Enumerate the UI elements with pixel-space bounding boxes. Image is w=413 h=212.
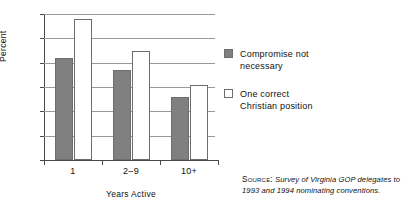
y-axis-tick — [40, 63, 44, 64]
legend-label-line1: Compromise not — [240, 49, 309, 59]
source-line1: Survey of Virginia GOP delegates to — [275, 175, 400, 184]
bar — [171, 97, 189, 160]
filled-gray-swatch-icon — [224, 49, 233, 58]
legend-label-line1: One correct — [240, 89, 289, 99]
x-axis-category-label: 1 — [70, 166, 75, 176]
bar — [190, 85, 208, 160]
legend-item-compromise-not-necessary: Compromise not necessary — [224, 48, 354, 72]
legend-label: Compromise not necessary — [240, 48, 309, 72]
chart-legend: Compromise not necessary One correct Chr… — [224, 48, 354, 128]
y-axis-tick — [40, 87, 44, 88]
x-axis-line — [44, 160, 218, 161]
bar — [132, 51, 150, 161]
legend-label-line2: Christian position — [240, 101, 313, 111]
x-axis-tick — [160, 160, 161, 165]
y-axis-tick — [40, 14, 44, 15]
gridline — [44, 14, 215, 15]
source-label: Source: — [242, 175, 273, 184]
source-note: Source: Survey of Virginia GOP delegates… — [242, 175, 410, 196]
open-white-swatch-icon — [224, 89, 233, 98]
legend-label: One correct Christian position — [240, 88, 313, 112]
x-axis-tick — [44, 160, 45, 165]
plot-area: 12–910+ — [44, 14, 218, 160]
bar — [74, 19, 92, 160]
legend-label-line2: necessary — [240, 61, 283, 71]
y-axis-tick — [40, 136, 44, 137]
bar — [55, 58, 73, 160]
x-axis-category-label: 2–9 — [123, 166, 139, 176]
source-line2: 1993 and 1994 nominating conventions. — [242, 186, 380, 195]
x-axis-title: Years Active — [44, 189, 218, 199]
x-axis-tick — [102, 160, 103, 165]
x-axis-tick — [218, 160, 219, 165]
bar-chart-figure: Percent 12–910+ 0102030405060 Years Acti… — [0, 0, 413, 212]
legend-item-one-correct-christian-position: One correct Christian position — [224, 88, 354, 112]
x-axis-category-label: 10+ — [181, 166, 197, 176]
y-axis-title: Percent — [0, 31, 8, 62]
y-axis-tick — [40, 111, 44, 112]
y-axis-tick — [40, 38, 44, 39]
gridline — [44, 38, 215, 39]
bar — [113, 70, 131, 160]
